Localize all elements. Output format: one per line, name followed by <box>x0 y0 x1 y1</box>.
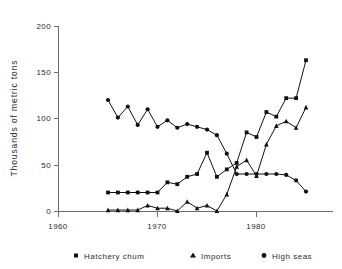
circle-marker-icon <box>126 104 130 108</box>
square-marker-icon <box>304 58 308 62</box>
x-tick-label-1960: 1960 <box>48 222 68 231</box>
square-marker-icon <box>294 96 298 100</box>
circle-marker-icon <box>155 125 159 129</box>
triangle-marker-icon <box>225 192 230 197</box>
square-marker-icon <box>215 175 219 179</box>
triangle-marker-icon <box>145 203 150 208</box>
series-high-seas <box>106 98 308 194</box>
y-tick-label-0: 0 <box>46 207 51 216</box>
circle-marker-icon <box>185 122 189 126</box>
circle-marker-icon <box>116 115 120 119</box>
y-tick-label-200: 200 <box>36 22 51 31</box>
circle-marker-icon <box>284 173 288 177</box>
triangle-marker-icon <box>185 199 190 204</box>
circle-marker-icon <box>175 126 179 130</box>
y-axis-title: Thousands of metric tons <box>9 59 19 176</box>
legend-label-hatchery-chum: Hatchery chum <box>84 252 144 261</box>
triangle-marker-icon <box>284 119 289 124</box>
square-marker-icon <box>175 182 179 186</box>
circle-marker-icon <box>225 152 229 156</box>
triangle-marker-icon <box>304 105 309 110</box>
y-tick-label-50: 50 <box>41 161 51 170</box>
circle-marker-icon <box>245 172 249 176</box>
square-marker-icon <box>106 191 110 195</box>
circle-marker-icon <box>215 133 219 137</box>
series-line <box>108 100 306 192</box>
square-marker-icon <box>156 191 160 195</box>
legend-label-imports: Imports <box>201 252 231 261</box>
circle-marker-icon <box>264 172 268 176</box>
x-tick-label-1980: 1980 <box>246 222 266 231</box>
circle-marker-icon <box>262 253 267 258</box>
square-marker-icon <box>274 115 278 119</box>
circle-marker-icon <box>274 172 278 176</box>
triangle-marker-icon <box>264 142 269 147</box>
circle-marker-icon <box>254 172 258 176</box>
circle-marker-icon <box>304 189 308 193</box>
y-tick-label-150: 150 <box>36 68 51 77</box>
square-marker-icon <box>126 191 130 195</box>
square-marker-icon <box>74 254 78 258</box>
circle-marker-icon <box>136 123 140 127</box>
circle-marker-icon <box>146 107 150 111</box>
circle-marker-icon <box>195 125 199 129</box>
square-marker-icon <box>136 191 140 195</box>
circle-marker-icon <box>294 178 298 182</box>
circle-marker-icon <box>235 172 239 176</box>
square-marker-icon <box>205 151 209 155</box>
y-tick-label-100: 100 <box>36 114 51 123</box>
series-layer <box>106 58 309 213</box>
square-marker-icon <box>245 130 249 134</box>
square-marker-icon <box>185 175 189 179</box>
x-tick-label-1970: 1970 <box>147 222 167 231</box>
chart-canvas: Thousands of metric tons 200 150 100 50 … <box>0 0 342 269</box>
square-marker-icon <box>116 191 120 195</box>
triangle-marker-icon <box>205 203 210 208</box>
square-marker-icon <box>255 135 259 139</box>
square-marker-icon <box>166 180 170 184</box>
circle-marker-icon <box>106 98 110 102</box>
triangle-marker-icon <box>190 253 196 258</box>
legend: Hatchery chum Imports High seas <box>74 252 312 261</box>
triangle-marker-icon <box>244 158 249 163</box>
square-marker-icon <box>146 191 150 195</box>
circle-marker-icon <box>165 118 169 122</box>
chart-figure: Thousands of metric tons 200 150 100 50 … <box>0 0 342 269</box>
triangle-marker-icon <box>294 125 299 130</box>
circle-marker-icon <box>205 128 209 132</box>
square-marker-icon <box>225 167 229 171</box>
square-marker-icon <box>265 110 269 114</box>
square-marker-icon <box>195 172 199 176</box>
legend-label-high-seas: High seas <box>272 252 312 261</box>
square-marker-icon <box>284 96 288 100</box>
